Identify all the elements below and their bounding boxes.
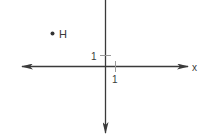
coordinate-plane: 1 1 x H	[0, 0, 211, 135]
point-h-dot	[51, 32, 55, 36]
x-tick-label: 1	[112, 74, 118, 85]
x-axis-label: x	[192, 62, 197, 73]
point-h-label: H	[59, 28, 67, 40]
y-tick-label: 1	[91, 51, 97, 62]
